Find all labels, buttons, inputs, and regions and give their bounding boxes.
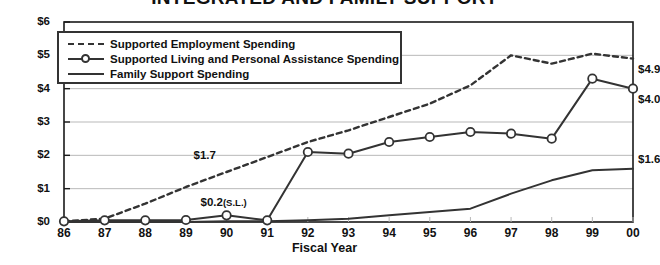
x-axis-tick-label: 94 <box>376 226 402 240</box>
data-point-marker <box>629 84 637 92</box>
x-axis-tick-label: 90 <box>214 226 240 240</box>
legend-item-supported-living: Supported Living and Personal Assistance… <box>66 51 399 67</box>
legend-swatch-solid-icon <box>66 67 106 81</box>
legend-swatch-dashed-icon <box>66 37 106 51</box>
data-label-value: $4.0 <box>638 93 660 105</box>
data-label-02: $0.2(S.L.) <box>201 196 247 208</box>
x-axis-tick-label: 93 <box>336 226 362 240</box>
y-axis-tick-label: $2 <box>16 149 50 160</box>
legend-label-family-support: Family Support Spending <box>106 68 249 80</box>
y-axis-tick-label: $5 <box>16 49 50 60</box>
data-label-value: $4.9 <box>638 63 660 75</box>
data-label-17: $1.7 <box>194 149 216 161</box>
x-axis-tick-label: 99 <box>579 226 605 240</box>
data-point-marker <box>344 149 352 157</box>
data-point-marker <box>426 133 434 141</box>
chart-legend: Supported Employment Spending Supported … <box>57 31 402 84</box>
legend-label-supported-employment: Supported Employment Spending <box>106 38 295 50</box>
x-axis-tick-label: 87 <box>92 226 118 240</box>
x-axis-tick-label: 89 <box>173 226 199 240</box>
data-point-marker <box>588 74 596 82</box>
x-axis-tick-label: 95 <box>417 226 443 240</box>
data-point-marker <box>304 148 312 156</box>
data-point-marker <box>60 217 68 225</box>
y-axis-tick-label: $6 <box>16 16 50 27</box>
data-point-marker <box>385 138 393 146</box>
legend-item-family-support: Family Support Spending <box>66 66 249 82</box>
data-label-value: $1.6 <box>638 153 660 165</box>
data-label-value: $1.7 <box>194 149 216 161</box>
x-axis-tick-label: 92 <box>295 226 321 240</box>
x-axis-tick-label: 88 <box>132 226 158 240</box>
x-axis-tick-label: 91 <box>254 226 280 240</box>
x-axis-title: Fiscal Year <box>0 241 649 255</box>
x-axis-tick-label: 97 <box>498 226 524 240</box>
data-label-40: $4.0 <box>638 93 660 105</box>
x-axis-tick-label: 96 <box>457 226 483 240</box>
data-label-value: $0.2 <box>201 196 223 208</box>
data-point-marker <box>507 129 515 137</box>
data-point-marker <box>263 216 271 224</box>
x-axis-tick-label: 00 <box>620 226 646 240</box>
data-point-marker <box>466 128 474 136</box>
y-axis-tick-label: $1 <box>16 183 50 194</box>
data-label-16: $1.6 <box>638 153 660 165</box>
x-axis-tick-label: 98 <box>539 226 565 240</box>
data-point-marker <box>182 216 190 224</box>
y-axis-tick-label: $4 <box>16 83 50 94</box>
data-point-marker <box>548 134 556 142</box>
legend-swatch-circle-marker-icon <box>66 52 106 66</box>
x-axis-tick-label: 86 <box>51 226 77 240</box>
y-axis-tick-label: $0 <box>16 216 50 227</box>
legend-label-supported-living: Supported Living and Personal Assistance… <box>106 53 399 65</box>
data-label-49: $4.9 <box>638 63 660 75</box>
data-point-marker <box>141 216 149 224</box>
data-point-marker <box>100 216 108 224</box>
y-axis-tick-label: $3 <box>16 116 50 127</box>
series-line-2 <box>64 169 633 222</box>
legend-item-supported-employment: Supported Employment Spending <box>66 36 295 52</box>
data-label-suffix: (S.L.) <box>223 197 247 208</box>
data-point-marker <box>222 211 230 219</box>
